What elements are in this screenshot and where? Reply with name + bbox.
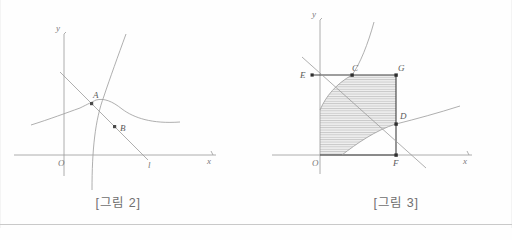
page-bottom-rule <box>0 224 512 225</box>
x-axis-arrow <box>211 151 213 155</box>
point-a-marker <box>90 102 93 105</box>
y-axis-arrow <box>64 32 66 34</box>
point-g-marker <box>394 73 397 76</box>
figure-2-caption: [그림 2] <box>0 192 246 211</box>
figure-3: E C G D F O y x [그림 3] <box>256 0 512 240</box>
point-c-label: C <box>352 63 359 73</box>
figure-3-canvas: E C G D F O y x <box>256 0 512 190</box>
logarithmic-curve <box>31 100 96 125</box>
point-e-marker <box>311 73 314 76</box>
point-d-label: D <box>399 111 407 121</box>
figure-2-canvas: A B O y x l <box>0 0 256 190</box>
point-a-label: A <box>92 90 99 100</box>
y-axis-label: y <box>311 9 316 19</box>
x-axis-label: x <box>462 156 467 166</box>
scanned-page: A B O y x l [그림 2] <box>0 0 512 240</box>
point-f-label: F <box>392 158 399 168</box>
figure-3-caption: [그림 3] <box>268 192 512 211</box>
point-f-marker <box>394 153 397 156</box>
y-axis-arrow <box>320 18 322 20</box>
point-b-marker <box>113 125 116 128</box>
x-axis-arrow <box>467 151 469 155</box>
figure-2: A B O y x l [그림 2] <box>0 0 256 240</box>
origin-label: O <box>312 158 319 168</box>
x-axis-label: x <box>206 156 211 166</box>
point-e-label: E <box>299 70 306 80</box>
point-c-marker <box>350 73 353 76</box>
point-d-marker <box>394 122 397 125</box>
origin-label: O <box>58 158 65 168</box>
point-b-label: B <box>120 123 126 133</box>
point-g-label: G <box>398 63 405 73</box>
logarithmic-curve-right <box>96 99 180 122</box>
exponential-curve <box>92 34 126 190</box>
line-l-label: l <box>148 160 151 170</box>
y-axis-label: y <box>55 23 60 33</box>
